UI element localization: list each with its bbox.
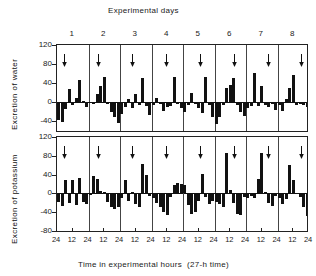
bar bbox=[173, 77, 176, 102]
bar bbox=[222, 102, 225, 105]
bar bbox=[257, 102, 260, 106]
y-tick-label: 0 bbox=[24, 188, 52, 197]
bar bbox=[253, 73, 256, 103]
figure-title: Experimental days bbox=[108, 6, 179, 15]
bar bbox=[64, 180, 67, 193]
y-tick-label: 80 bbox=[24, 59, 52, 68]
bar bbox=[68, 89, 71, 102]
bar bbox=[292, 75, 295, 102]
bar bbox=[145, 175, 148, 194]
bar bbox=[71, 102, 74, 104]
bar bbox=[292, 180, 295, 193]
event-arrow-icon bbox=[266, 53, 271, 66]
bar bbox=[253, 193, 256, 198]
bar bbox=[306, 193, 308, 216]
bar bbox=[169, 193, 172, 197]
day-separator bbox=[152, 137, 153, 231]
day-separator bbox=[183, 45, 184, 131]
figure-root: Experimental days Excretion of water Exc… bbox=[0, 0, 316, 276]
bar bbox=[127, 193, 130, 201]
event-arrow-icon bbox=[198, 145, 203, 158]
event-arrow-icon bbox=[299, 53, 304, 66]
bar bbox=[281, 102, 284, 111]
day-label: 4 bbox=[151, 29, 183, 38]
bar bbox=[78, 80, 81, 102]
y-tick-label: 40 bbox=[24, 78, 52, 87]
event-arrow-icon bbox=[96, 145, 101, 158]
chart-panel-water bbox=[56, 44, 308, 132]
bar bbox=[138, 102, 141, 105]
y-tick-mark bbox=[52, 231, 56, 232]
bar bbox=[75, 193, 78, 204]
event-arrow-icon bbox=[164, 145, 169, 158]
chart-panel-potassium bbox=[56, 136, 308, 232]
bar bbox=[131, 102, 134, 108]
x-tick-mark bbox=[229, 228, 230, 232]
y-axis-label-potassium: Excretion of potassium bbox=[10, 154, 19, 244]
bar bbox=[285, 193, 288, 199]
x-tick-mark bbox=[166, 228, 167, 232]
y-tick-label: 80 bbox=[24, 151, 52, 160]
day-label: 5 bbox=[182, 29, 214, 38]
y-tick-mark bbox=[52, 121, 56, 122]
event-arrow-icon bbox=[62, 145, 67, 158]
y-tick-label: 0 bbox=[24, 97, 52, 106]
event-arrow-icon bbox=[164, 53, 169, 66]
y-tick-label: -40 bbox=[24, 116, 52, 125]
bar bbox=[225, 153, 228, 193]
y-tick-mark bbox=[52, 193, 56, 194]
bar bbox=[222, 193, 225, 207]
day-separator bbox=[278, 137, 279, 231]
y-axis-label-water: Excretion of water bbox=[10, 59, 19, 130]
day-label: 2 bbox=[88, 29, 120, 38]
day-label: 3 bbox=[119, 29, 151, 38]
bar bbox=[260, 86, 263, 103]
x-tick-mark bbox=[72, 228, 73, 232]
y-tick-label: -80 bbox=[24, 226, 52, 235]
day-separator bbox=[246, 45, 247, 131]
y-tick-mark bbox=[52, 83, 56, 84]
bar bbox=[141, 78, 144, 102]
bar bbox=[64, 102, 67, 109]
bar bbox=[103, 77, 106, 102]
day-separator bbox=[120, 137, 121, 231]
bar bbox=[124, 102, 127, 107]
day-label: 6 bbox=[214, 29, 246, 38]
event-arrow-icon bbox=[232, 145, 237, 158]
bar bbox=[169, 102, 172, 106]
event-arrow-icon bbox=[62, 53, 67, 66]
event-arrow-icon bbox=[266, 145, 271, 158]
event-arrow-icon bbox=[198, 53, 203, 66]
y-tick-mark bbox=[52, 102, 56, 103]
plot-area-water bbox=[57, 45, 307, 131]
event-arrow-icon bbox=[96, 53, 101, 66]
x-tick-mark bbox=[261, 228, 262, 232]
y-tick-mark bbox=[52, 212, 56, 213]
bar bbox=[68, 193, 71, 202]
bar bbox=[187, 102, 190, 105]
bar bbox=[183, 185, 186, 193]
bar bbox=[92, 102, 95, 104]
y-tick-label: 40 bbox=[24, 170, 52, 179]
y-tick-mark bbox=[52, 156, 56, 157]
bar bbox=[201, 102, 204, 113]
bar bbox=[134, 94, 137, 103]
bar bbox=[204, 77, 207, 102]
day-separator bbox=[278, 45, 279, 131]
bar bbox=[201, 174, 204, 194]
y-tick-mark bbox=[52, 45, 56, 46]
x-tick-mark bbox=[292, 228, 293, 232]
x-tick-mark bbox=[103, 228, 104, 232]
y-tick-label: 120 bbox=[24, 132, 52, 141]
bar bbox=[306, 102, 308, 107]
event-arrow-icon bbox=[130, 53, 135, 66]
bar bbox=[250, 102, 253, 106]
y-tick-mark bbox=[52, 175, 56, 176]
y-tick-mark bbox=[52, 64, 56, 65]
bar bbox=[89, 193, 92, 195]
bar bbox=[120, 193, 123, 198]
day-separator bbox=[89, 45, 90, 131]
event-arrow-icon bbox=[299, 145, 304, 158]
bar bbox=[197, 193, 200, 201]
bar bbox=[78, 178, 81, 193]
